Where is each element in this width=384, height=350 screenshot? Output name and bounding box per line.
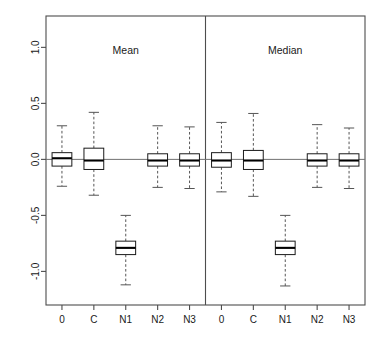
y-tick-label-0: 1.0 xyxy=(31,40,42,54)
panel-title-mean: Mean xyxy=(113,44,139,56)
boxplot-figure: 1.00.50.0-0.5-1.0 0CN1N2N30CN1N2N3 MeanM… xyxy=(0,0,384,350)
y-tick-label-3: -0.5 xyxy=(31,206,42,224)
boxplot-svg: 1.00.50.0-0.5-1.0 0CN1N2N30CN1N2N3 MeanM… xyxy=(0,0,384,350)
x-tick-label-1: C xyxy=(90,314,97,325)
y-tick-label-2: 0.0 xyxy=(31,152,42,166)
x-tick-label-9: N3 xyxy=(343,314,356,325)
y-tick-label-4: -1.0 xyxy=(31,262,42,280)
panel-title-median: Median xyxy=(268,44,303,56)
x-tick-label-8: N2 xyxy=(311,314,324,325)
box-body xyxy=(84,148,104,169)
x-tick-label-4: N3 xyxy=(183,314,196,325)
x-tick-label-6: C xyxy=(250,314,257,325)
x-tick-label-0: 0 xyxy=(59,314,65,325)
x-tick-label-7: N1 xyxy=(279,314,292,325)
x-tick-label-5: 0 xyxy=(219,314,225,325)
plot-background xyxy=(0,0,384,350)
x-tick-label-2: N1 xyxy=(119,314,132,325)
y-tick-label-1: 0.5 xyxy=(31,96,42,110)
box-body xyxy=(52,153,72,166)
x-tick-label-3: N2 xyxy=(151,314,164,325)
